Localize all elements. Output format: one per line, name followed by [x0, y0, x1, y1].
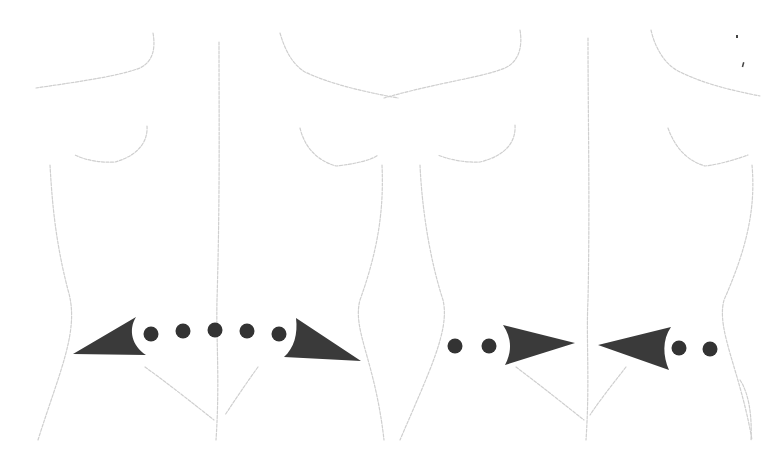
arrow-left-inward-icon — [598, 327, 671, 370]
arrow-left-outward-icon — [73, 317, 146, 355]
arrow-right-inward-icon — [503, 325, 575, 365]
speck-mark — [736, 35, 738, 38]
left-torso-outline — [36, 33, 398, 440]
torso-illustration — [0, 0, 784, 453]
right-torso-panel — [384, 30, 760, 440]
right-dots-right-side — [672, 341, 718, 357]
speck-mark — [742, 62, 745, 67]
right-torso-outline — [384, 30, 760, 440]
right-dots-left-side — [448, 339, 497, 354]
left-torso-panel — [36, 33, 398, 440]
left-dots — [144, 323, 287, 342]
arrow-right-outward-icon — [284, 318, 361, 361]
